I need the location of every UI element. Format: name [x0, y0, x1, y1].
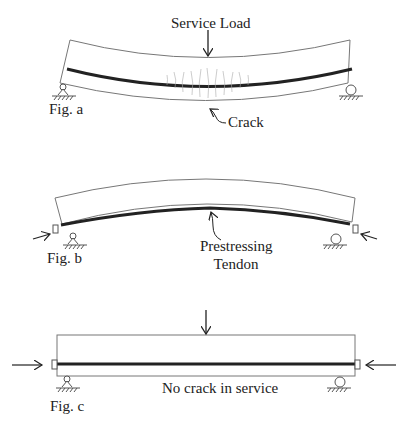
fig-c-right-anchor [355, 360, 360, 369]
fig-c-note: No crack in service [162, 380, 278, 397]
fig-b-roller-support [323, 234, 347, 249]
fig-b-left-force-arrow [33, 234, 50, 239]
fig-a-pin-support [52, 84, 76, 100]
fig-b-tendon-leader [211, 212, 221, 240]
fig-b-right-force-arrow [361, 234, 377, 239]
fig-b-tendon-label-line2: Tendon [200, 256, 272, 273]
fig-b-pin-support [63, 233, 87, 249]
fig-a-beam [52, 30, 363, 123]
fig-a-roller-support [339, 85, 363, 100]
fig-a-crack-leader [210, 109, 226, 123]
fig-c-pin-support [56, 376, 80, 392]
fig-a-load-label: Service Load [171, 15, 251, 32]
fig-b-left-anchor [53, 225, 58, 233]
fig-c-roller-support [327, 377, 351, 392]
fig-c-left-anchor [52, 360, 57, 369]
fig-b-caption: Fig. b [47, 250, 82, 267]
fig-b-right-anchor [353, 225, 358, 233]
fig-c-caption: Fig. c [50, 398, 84, 415]
fig-a-crack-label: Crack [228, 114, 264, 131]
diagram-canvas [0, 0, 410, 429]
fig-b-tendon-label-line1: Prestressing [200, 238, 272, 255]
fig-a-caption: Fig. a [49, 101, 83, 118]
